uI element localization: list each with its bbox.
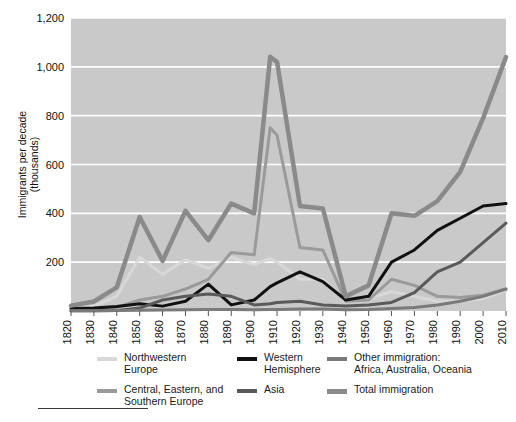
y-tick-label-1200: 1,200 [36,12,64,24]
x-tick-label-1940: 1940 [336,320,348,344]
x-tick-label-2000: 2000 [473,320,485,344]
legend-swatch-icon [237,357,257,361]
figure-root: 2004006008001,0001,200 18201830184018501… [0,0,516,422]
x-tick-label-1910: 1910 [267,320,279,344]
x-tick-label-1890: 1890 [221,320,233,344]
y-tick-label-800: 800 [46,110,64,122]
legend-swatch-icon [97,357,117,361]
x-tick-label-1920: 1920 [290,320,302,344]
x-tick-label-1830: 1830 [84,320,96,344]
x-tick-label-1850: 1850 [130,320,142,344]
y-axis-title-line1: Immigrants per decade [16,111,28,219]
legend-column-2: Other immigration: Africa, Australia, Oc… [327,352,516,405]
x-axis-tick-labels: 1820183018401850186018701880189019001910… [61,311,508,344]
legend-item-label: Central, Eastern, and Southern Europe [124,384,223,407]
legend-column-1: Western HemisphereAsia [237,352,327,405]
x-tick-label-1900: 1900 [244,320,256,344]
y-tick-label-200: 200 [46,256,64,268]
x-tick-label-1980: 1980 [427,320,439,344]
legend-item[interactable]: Other immigration: Africa, Australia, Oc… [327,352,516,375]
legend-column-0: Northwestern EuropeCentral, Eastern, and… [97,352,237,416]
legend-item[interactable]: Asia [237,384,327,396]
x-tick-label-1870: 1870 [175,320,187,344]
legend-item-label: Asia [264,384,284,396]
x-tick-label-1950: 1950 [359,320,371,344]
legend-item[interactable]: Western Hemisphere [237,352,327,375]
x-tick-label-1880: 1880 [198,320,210,344]
legend-swatch-icon [237,389,257,393]
y-tick-label-600: 600 [46,159,64,171]
footnote-rule [38,408,148,409]
legend-swatch-icon [97,389,117,393]
x-tick-label-1860: 1860 [153,320,165,344]
x-tick-label-1970: 1970 [404,320,416,344]
x-tick-label-1820: 1820 [61,320,73,344]
x-tick-label-1960: 1960 [382,320,394,344]
legend-item-label: Total immigration [354,384,433,396]
x-tick-label-2010: 2010 [496,320,508,344]
y-axis-tick-labels: 2004006008001,0001,200 [36,12,64,268]
legend-swatch-icon [327,389,347,394]
y-axis-title: Immigrants per decade(thousands) [16,111,40,219]
x-tick-label-1990: 1990 [450,320,462,344]
legend-item-label: Northwestern Europe [124,352,186,375]
legend-item[interactable]: Central, Eastern, and Southern Europe [97,384,237,407]
y-axis-title-line2: (thousands) [28,137,40,192]
legend-item[interactable]: Northwestern Europe [97,352,237,375]
immigration-line-chart: 2004006008001,0001,200 18201830184018501… [0,0,516,352]
x-tick-label-1840: 1840 [107,320,119,344]
legend-item-label: Other immigration: Africa, Australia, Oc… [354,352,472,375]
chart-legend: Northwestern EuropeCentral, Eastern, and… [0,352,516,422]
x-tick-label-1930: 1930 [313,320,325,344]
legend-item[interactable]: Total immigration [327,384,516,396]
legend-item-label: Western Hemisphere [264,352,321,375]
y-tick-label-400: 400 [46,207,64,219]
legend-swatch-icon [327,357,347,361]
y-tick-label-1000: 1,000 [36,61,64,73]
